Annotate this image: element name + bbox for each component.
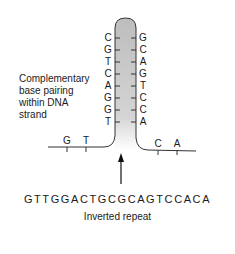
stem-base-left: G (103, 44, 113, 55)
stem-base-right: C (138, 92, 148, 103)
stem-base-left: G (103, 92, 113, 103)
caption-inverted-repeat: Inverted repeat (0, 211, 235, 222)
stem-base-right: A (138, 56, 148, 67)
stem-base-right: T (138, 80, 148, 91)
stem-base-right: G (138, 68, 148, 79)
stem-base-right: C (138, 104, 148, 115)
stem-base-right: C (138, 44, 148, 55)
flank-base-right: C (153, 138, 163, 149)
stem-base-left: G (103, 104, 113, 115)
label-line: Complementary (19, 73, 90, 85)
label-line: strand (19, 109, 90, 121)
stem-base-right: G (138, 32, 148, 43)
label-line: base pairing (19, 85, 90, 97)
flank-base-left: G (62, 135, 72, 146)
pairing-label: Complementary base pairing within DNA st… (19, 73, 90, 121)
stem-base-left: C (103, 68, 113, 79)
stem-base-right: A (138, 116, 148, 127)
stem-base-left: T (103, 56, 113, 67)
stem-base-left: A (103, 80, 113, 91)
label-line: within DNA (19, 97, 90, 109)
stem-base-left: T (103, 116, 113, 127)
flank-base-right: A (172, 138, 182, 149)
dna-sequence: GTTGGACTGCGCAGTCCACA (0, 193, 235, 205)
flank-base-left: T (81, 135, 91, 146)
stem-base-left: C (103, 32, 113, 43)
